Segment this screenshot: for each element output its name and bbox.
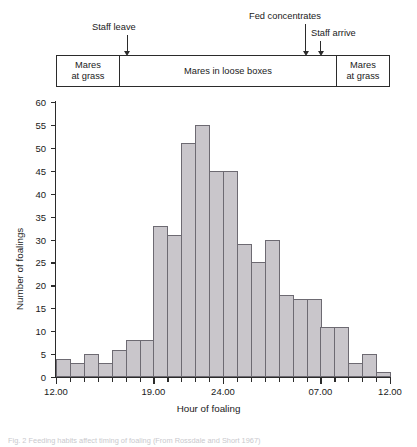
x-axis-tick xyxy=(209,377,210,382)
y-axis-tick-label: 40 xyxy=(35,188,46,199)
histogram-bar xyxy=(181,143,196,377)
y-axis-tick-label: 20 xyxy=(35,280,46,291)
x-axis-tick-label: 07.00 xyxy=(309,386,333,397)
x-axis-tick xyxy=(195,377,196,382)
x-axis-tick xyxy=(126,377,127,382)
y-axis-tick xyxy=(51,102,55,103)
y-axis-tick-label: 0 xyxy=(41,372,46,383)
timeline-segment-label: Mares in loose boxes xyxy=(184,66,272,77)
histogram-bar xyxy=(265,240,280,378)
y-axis-tick xyxy=(51,240,55,241)
histogram-bar xyxy=(251,262,266,377)
y-axis-tick-label: 30 xyxy=(35,234,46,245)
y-axis-tick xyxy=(51,262,55,263)
y-axis-tick xyxy=(51,194,55,195)
x-axis-tick xyxy=(98,377,99,382)
x-axis-tick xyxy=(56,377,57,384)
x-axis-tick xyxy=(237,377,238,382)
x-axis-tick-label: 12.00 xyxy=(44,386,68,397)
histogram-bar xyxy=(112,350,127,378)
y-axis-tick xyxy=(51,217,55,218)
histogram-bar xyxy=(167,235,182,377)
annotation-arrow-icon xyxy=(127,35,128,51)
x-axis-tick xyxy=(251,377,252,382)
histogram-bar xyxy=(279,295,294,378)
y-axis-tick-label: 50 xyxy=(35,142,46,153)
x-axis-tick-label: 24.00 xyxy=(211,386,235,397)
annotation-arrow-icon xyxy=(305,24,306,51)
x-axis-tick xyxy=(376,377,377,382)
y-axis-tick xyxy=(51,331,55,332)
x-axis-title: Hour of foaling xyxy=(0,403,417,414)
histogram-bar xyxy=(376,372,391,377)
y-axis-tick-label: 45 xyxy=(35,165,46,176)
histogram-bar xyxy=(56,359,71,377)
histogram-bar xyxy=(153,226,168,377)
x-axis-tick xyxy=(112,377,113,382)
figure-caption: Fig. 2 Feeding habits affect timing of f… xyxy=(8,436,409,445)
x-axis-tick xyxy=(140,377,141,382)
histogram-bar xyxy=(237,244,252,377)
y-axis-tick xyxy=(51,377,55,378)
annotation-label: Staff leave xyxy=(92,22,136,32)
x-axis-tick-label: 12.00 xyxy=(378,386,402,397)
x-axis-tick xyxy=(279,377,280,382)
y-axis-tick xyxy=(51,148,55,149)
y-axis-tick-label: 15 xyxy=(35,303,46,314)
annotation-label: Fed concentrates xyxy=(249,11,321,21)
timeline-segment-mares-at-grass-right: Maresat grass xyxy=(336,56,389,86)
timeline-segment-mares-in-loose-boxes: Mares in loose boxes xyxy=(119,56,336,86)
y-axis-tick-label: 35 xyxy=(35,211,46,222)
y-axis-tick xyxy=(51,308,55,309)
timeline-segment-mares-at-grass-left: Maresat grass xyxy=(57,56,119,86)
annotation-label: Staff arrive xyxy=(311,28,356,38)
histogram-bar xyxy=(320,327,335,377)
histogram-bar xyxy=(70,363,85,377)
histogram-bar xyxy=(209,171,224,377)
x-axis-tick xyxy=(307,377,308,382)
histogram-bar xyxy=(98,363,113,377)
x-axis-tick-label: 19.00 xyxy=(142,386,166,397)
y-axis-tick-label: 55 xyxy=(35,119,46,130)
histogram-bar xyxy=(334,327,349,377)
x-axis-tick xyxy=(70,377,71,382)
histogram-bar xyxy=(307,299,322,377)
y-axis-tick-label: 60 xyxy=(35,97,46,108)
x-axis-tick xyxy=(293,377,294,382)
histogram-bar xyxy=(195,125,210,377)
y-axis-tick-label: 10 xyxy=(35,326,46,337)
histogram-bar xyxy=(293,299,308,377)
y-axis-tick-label: 25 xyxy=(35,257,46,268)
histogram-bar xyxy=(223,171,238,377)
histogram-bar xyxy=(140,340,155,377)
x-axis-tick xyxy=(265,377,266,382)
x-axis-tick xyxy=(167,377,168,382)
y-axis-tick xyxy=(51,125,55,126)
x-axis-tick xyxy=(153,377,154,384)
histogram-bar xyxy=(126,340,141,377)
histogram-bar xyxy=(84,354,99,377)
histogram-plot-area xyxy=(56,102,390,377)
annotation-arrow-icon xyxy=(320,41,321,51)
histogram-bar xyxy=(348,363,363,377)
timeline-segment-label: Maresat grass xyxy=(346,60,379,82)
histogram-bar xyxy=(362,354,377,377)
x-axis-tick xyxy=(348,377,349,382)
x-axis-tick xyxy=(320,377,321,384)
timeline-segment-label: Maresat grass xyxy=(71,60,104,82)
management-timeline-band: Maresat grass Mares in loose boxes Mares… xyxy=(56,55,390,87)
y-axis-tick xyxy=(51,285,55,286)
x-axis-tick xyxy=(362,377,363,382)
y-axis-tick-label: 5 xyxy=(41,349,46,360)
x-axis-tick xyxy=(390,377,391,384)
y-axis-tick xyxy=(51,171,55,172)
x-axis-tick xyxy=(334,377,335,382)
y-axis-tick xyxy=(51,354,55,355)
x-axis-tick xyxy=(84,377,85,382)
x-axis-tick xyxy=(181,377,182,382)
y-axis-title: Number of foalings xyxy=(14,228,25,310)
x-axis-tick xyxy=(223,377,224,384)
